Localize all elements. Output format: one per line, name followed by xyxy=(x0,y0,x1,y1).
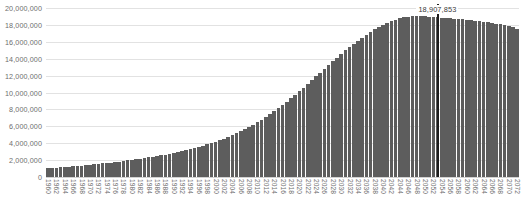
bar xyxy=(277,108,281,177)
bar xyxy=(80,166,84,177)
y-axis-tick-label: 12,000,000 xyxy=(5,71,42,80)
bar xyxy=(164,155,168,177)
bar xyxy=(101,163,105,177)
bar xyxy=(59,167,63,177)
bar xyxy=(155,156,159,177)
bar xyxy=(222,139,226,177)
bar xyxy=(490,23,494,177)
bar xyxy=(369,32,373,177)
y-axis-tick-label: 0 xyxy=(38,173,42,182)
bar xyxy=(130,160,134,177)
y-axis-tick-label: 8,000,000 xyxy=(9,105,42,114)
bar xyxy=(448,18,452,177)
bar xyxy=(482,22,486,177)
bar xyxy=(314,76,318,177)
bar xyxy=(499,24,503,177)
y-axis-tick-label: 6,000,000 xyxy=(9,122,42,131)
x-axis: 1960196219641966196819701972197419761978… xyxy=(46,179,519,209)
bar xyxy=(243,129,247,177)
bar xyxy=(172,153,176,177)
bar xyxy=(214,142,218,177)
annotation-marker-line xyxy=(437,4,438,177)
bar xyxy=(147,157,151,177)
annotation-value-label: 18,907,853 xyxy=(416,5,458,14)
bar xyxy=(365,35,369,177)
bar xyxy=(335,58,339,177)
bar xyxy=(478,21,482,177)
bar xyxy=(432,17,436,177)
bar xyxy=(507,26,511,177)
y-axis-tick-label: 18,000,000 xyxy=(5,20,42,29)
y-axis-tick-label: 4,000,000 xyxy=(9,139,42,148)
bar xyxy=(381,25,385,177)
bar xyxy=(398,18,402,177)
bar xyxy=(423,16,427,177)
bar xyxy=(168,154,172,177)
bar xyxy=(310,80,314,177)
bar xyxy=(117,162,121,177)
bar xyxy=(256,122,260,177)
bar xyxy=(360,38,364,178)
y-axis-tick-label: 2,000,000 xyxy=(9,156,42,165)
bar xyxy=(205,144,209,177)
bar xyxy=(486,22,490,177)
bar xyxy=(469,20,473,177)
bar xyxy=(218,140,222,177)
bar xyxy=(289,98,293,177)
bar xyxy=(465,20,469,177)
bar xyxy=(138,159,142,177)
bar xyxy=(180,151,184,177)
bar xyxy=(239,131,243,177)
bar xyxy=(251,125,255,177)
bar xyxy=(143,158,147,177)
bar xyxy=(339,54,343,177)
bar xyxy=(302,88,306,177)
bar xyxy=(88,165,92,177)
y-axis: 20,000,00018,000,00016,000,00014,000,000… xyxy=(0,0,44,178)
bar xyxy=(67,167,71,177)
bar xyxy=(281,105,285,177)
x-axis-tick-label: 2072 xyxy=(514,179,521,194)
bar xyxy=(184,150,188,177)
bar xyxy=(134,159,138,177)
plot-area xyxy=(46,8,519,177)
bar xyxy=(76,166,80,177)
bar xyxy=(390,21,394,177)
bar xyxy=(503,25,507,177)
bar xyxy=(415,16,419,177)
bar xyxy=(63,167,67,177)
bar xyxy=(247,127,251,177)
bar xyxy=(356,41,360,177)
bar xyxy=(373,29,377,177)
x-axis-tick-slot: 2072 xyxy=(515,179,519,209)
bar xyxy=(97,164,101,177)
bar xyxy=(298,91,302,177)
bar xyxy=(264,117,268,177)
bar xyxy=(344,50,348,177)
bar xyxy=(109,163,113,177)
bar xyxy=(231,135,235,177)
gridline xyxy=(46,177,519,178)
bar xyxy=(197,147,201,177)
bar xyxy=(226,137,230,177)
bar xyxy=(260,120,264,177)
bar xyxy=(461,19,465,177)
bar xyxy=(176,152,180,177)
bar xyxy=(411,16,415,177)
bar xyxy=(193,148,197,177)
y-axis-tick-label: 10,000,000 xyxy=(5,88,42,97)
bar xyxy=(515,29,519,177)
bar xyxy=(105,163,109,177)
bar xyxy=(406,17,410,177)
bar xyxy=(159,155,163,177)
bar xyxy=(50,168,54,177)
bar xyxy=(189,149,193,177)
y-axis-tick-label: 14,000,000 xyxy=(5,54,42,63)
bar xyxy=(306,84,310,177)
bar xyxy=(494,24,498,177)
y-axis-tick-label: 20,000,000 xyxy=(5,4,42,13)
bar xyxy=(201,146,205,177)
bar xyxy=(419,16,423,177)
bar xyxy=(377,27,381,177)
bar xyxy=(151,157,155,177)
